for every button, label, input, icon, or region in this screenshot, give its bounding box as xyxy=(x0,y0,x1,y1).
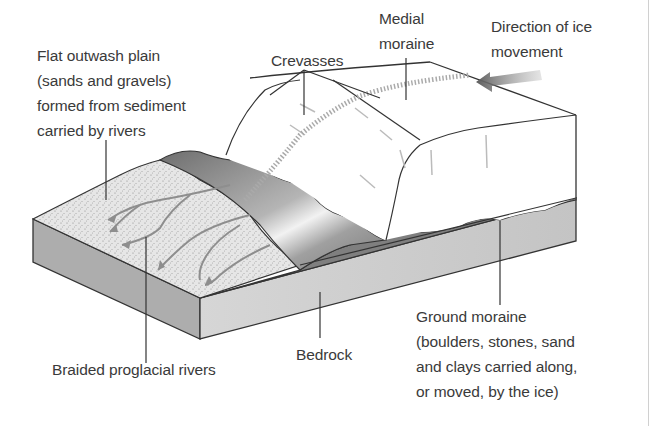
label-braided-rivers: Braided proglacial rivers xyxy=(52,357,216,382)
page-edge-divider xyxy=(648,0,649,426)
label-crevasses: Crevasses xyxy=(271,48,343,73)
label-bedrock: Bedrock xyxy=(296,342,352,367)
glacier-diagram: Flat outwash plain (sands and gravels) f… xyxy=(0,0,666,426)
label-ground-moraine: Ground moraine (boulders, stones, sand a… xyxy=(416,304,577,404)
label-ice-direction: Direction of ice movement xyxy=(491,14,592,64)
label-medial-moraine: Medial moraine xyxy=(379,6,434,56)
label-outwash-plain: Flat outwash plain (sands and gravels) f… xyxy=(37,43,186,143)
